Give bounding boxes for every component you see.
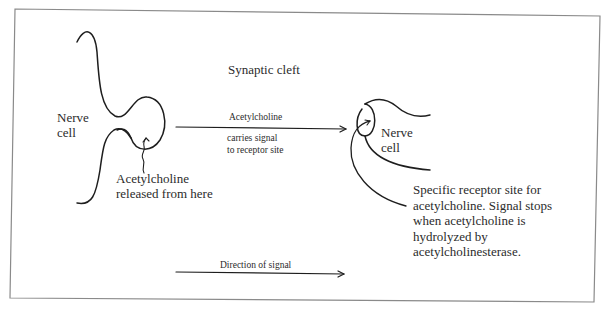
postsynaptic-membrane-upper bbox=[365, 99, 430, 116]
release-site-label: Acetylcholine released from here bbox=[116, 172, 213, 202]
direction-arrow-line bbox=[176, 272, 344, 274]
synapse-diagram bbox=[0, 0, 610, 314]
release-arrowhead-icon bbox=[143, 138, 149, 142]
direction-of-signal-label: Direction of signal bbox=[220, 260, 291, 272]
carries-signal-label: carries signal to receptor site bbox=[227, 133, 283, 157]
synaptic-cleft-label: Synaptic cleft bbox=[228, 63, 300, 78]
release-squiggle bbox=[142, 138, 146, 173]
receptor-site-label: Specific receptor site for acetylcholine… bbox=[413, 182, 552, 260]
presynaptic-cell-label: Nerve cell bbox=[57, 111, 89, 141]
presynaptic-membrane-upper bbox=[77, 32, 165, 149]
acetylcholine-arrow-label: Acetylcholine bbox=[229, 112, 282, 124]
acetylcholine-arrow-line bbox=[176, 127, 346, 129]
postsynaptic-cell-label: Nerve cell bbox=[381, 126, 413, 156]
